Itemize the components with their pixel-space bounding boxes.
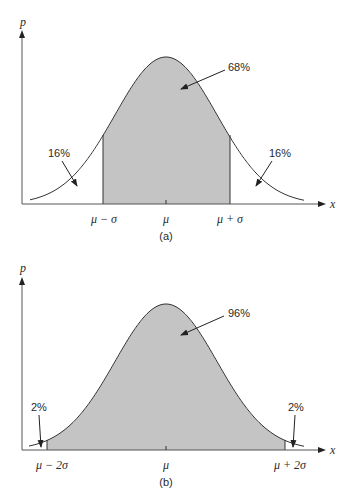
pct-center-a: 68% — [228, 61, 250, 73]
y-axis-arrow-icon — [19, 30, 25, 38]
shaded-area-a — [103, 57, 230, 204]
pct-left-b: 2% — [31, 401, 47, 413]
figure: p x μ − σ μ μ + σ (a) 68% 16% 16% p x μ … — [0, 0, 357, 503]
tick-label-mid-b: μ — [162, 458, 169, 472]
tick-label-right-a: μ + σ — [216, 212, 244, 226]
tick-label-left-b: μ − 2σ — [35, 458, 69, 472]
y-axis-label-b: p — [19, 261, 26, 275]
tick-label-mid-a: μ — [162, 212, 169, 226]
caption-b: (b) — [159, 476, 172, 488]
arrow-left-a — [62, 161, 77, 186]
x-axis-label-b: x — [329, 443, 336, 457]
x-axis-arrow-icon — [318, 201, 326, 207]
tick-label-left-a: μ − σ — [90, 212, 118, 226]
x-axis-arrow-icon — [318, 447, 326, 453]
arrow-left-b — [39, 415, 41, 447]
tick-label-right-b: μ + 2σ — [273, 458, 307, 472]
panel-b: p x μ − 2σ μ μ + 2σ (b) 96% 2% 2% — [19, 261, 336, 488]
pct-center-b: 96% — [228, 307, 250, 319]
pct-right-b: 2% — [288, 401, 304, 413]
y-axis-arrow-icon — [19, 277, 25, 285]
arrow-right-b — [293, 415, 295, 447]
pct-right-a: 16% — [269, 147, 291, 159]
arrow-right-a — [256, 161, 272, 186]
shaded-area-b — [47, 304, 285, 450]
x-axis-label-a: x — [329, 197, 336, 211]
pct-left-a: 16% — [48, 147, 70, 159]
caption-a: (a) — [159, 230, 172, 242]
y-axis-label-a: p — [19, 15, 26, 29]
panel-a: p x μ − σ μ μ + σ (a) 68% 16% 16% — [19, 15, 336, 242]
